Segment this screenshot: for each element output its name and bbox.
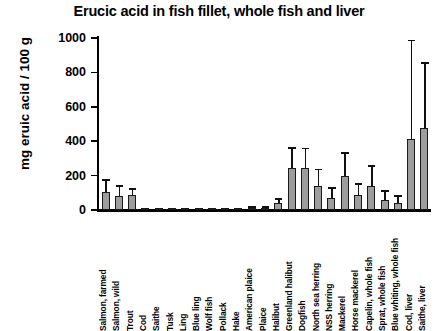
x-label-slot: Hake xyxy=(233,213,244,331)
x-label-slot: Blue whiting, whole fish xyxy=(392,213,403,331)
bar xyxy=(102,192,110,210)
error-bar-cap xyxy=(302,148,310,150)
bar xyxy=(381,200,389,210)
bar xyxy=(195,208,203,210)
error-bar-cap xyxy=(355,183,363,185)
x-tick-label: Halibut xyxy=(271,303,281,331)
error-bar-cap xyxy=(368,165,376,167)
x-tick-label: Saithe, liver xyxy=(417,285,427,331)
x-tick-label: Tusk xyxy=(165,312,175,331)
error-bar-cap xyxy=(341,152,349,154)
bar-group xyxy=(100,38,111,210)
x-tick-label: Blue ling xyxy=(191,297,201,331)
x-tick-label: NSS herring xyxy=(324,284,334,331)
x-tick-label: Cod xyxy=(138,315,148,331)
y-tick-label: 400 xyxy=(65,134,86,148)
error-bar-cap xyxy=(381,190,389,192)
bar xyxy=(234,208,242,210)
bar-group xyxy=(167,38,178,210)
error-bar-cap xyxy=(315,169,323,171)
x-label-slot: Saithe, liver xyxy=(419,213,430,331)
bar xyxy=(394,203,402,210)
y-tick-mark xyxy=(91,37,98,39)
x-tick-label: North sea herring xyxy=(311,263,321,331)
x-tick-label: Horse mackerel xyxy=(350,270,360,331)
bar-group xyxy=(299,38,310,210)
y-tick-label: 200 xyxy=(65,169,86,183)
bar-group xyxy=(140,38,151,210)
bar xyxy=(314,186,322,210)
bar-group xyxy=(352,38,363,210)
x-label-slot: Horse mackerel xyxy=(352,213,363,331)
error-bar-cap xyxy=(116,185,124,187)
error-bar-cap xyxy=(394,195,402,197)
y-tick-mark xyxy=(91,175,98,177)
error-bar-cap xyxy=(421,62,429,64)
y-tick-mark xyxy=(91,140,98,142)
bar-group xyxy=(313,38,324,210)
bar-group xyxy=(273,38,284,210)
bar xyxy=(341,176,349,210)
x-label-slot: Dogfish xyxy=(299,213,310,331)
bar-group xyxy=(233,38,244,210)
y-tick-mark xyxy=(91,72,98,74)
bar-group xyxy=(180,38,191,210)
error-bar-cap xyxy=(129,188,137,190)
x-tick-label: Mackerel xyxy=(337,296,347,331)
bar xyxy=(128,195,136,210)
x-tick-label: Wolf fish xyxy=(204,297,214,331)
bar-group xyxy=(406,38,417,210)
bar xyxy=(407,139,415,210)
y-tick-label: 600 xyxy=(65,100,86,114)
x-label-slot: Cod, liver xyxy=(406,213,417,331)
bar xyxy=(274,203,282,210)
bar-group xyxy=(193,38,204,210)
x-label-slot: Pollack xyxy=(220,213,231,331)
x-label-slot: Halibut xyxy=(273,213,284,331)
x-tick-label: Sprat, whole fish xyxy=(377,266,387,331)
error-bar-cap xyxy=(328,187,336,189)
error-bar-cap xyxy=(408,40,416,42)
error-bar-cap xyxy=(275,198,283,200)
x-label-slot: North sea herring xyxy=(313,213,324,331)
bar-group xyxy=(326,38,337,210)
x-tick-label: Plaice xyxy=(258,307,268,331)
x-tick-label: American plaice xyxy=(244,268,254,331)
x-label-slot: Sprat, whole fish xyxy=(379,213,390,331)
bar-group xyxy=(153,38,164,210)
x-tick-label: Saithe xyxy=(151,306,161,331)
chart-title: Erucic acid in fish fillet, whole fish a… xyxy=(0,3,438,19)
bar-group xyxy=(392,38,403,210)
bar-group xyxy=(419,38,430,210)
bar-group xyxy=(379,38,390,210)
bar xyxy=(327,198,335,210)
x-label-slot: American plaice xyxy=(246,213,257,331)
x-label-slot: Salmon, wild xyxy=(113,213,124,331)
x-tick-label: Cod, liver xyxy=(404,294,414,331)
bar-group xyxy=(366,38,377,210)
bar xyxy=(354,195,362,210)
bar xyxy=(288,168,296,210)
y-tick-label: 0 xyxy=(79,203,86,217)
x-label-slot: Trout xyxy=(127,213,138,331)
plot-area xyxy=(99,38,431,210)
x-label-slot: Cod xyxy=(140,213,151,331)
x-label-slot: Salmon, farmed xyxy=(100,213,111,331)
x-tick-label: Capelin, whole fish xyxy=(364,257,374,331)
bar xyxy=(168,208,176,210)
bar xyxy=(115,196,123,210)
y-tick-mark xyxy=(91,106,98,108)
x-tick-label: Greenland halibut xyxy=(284,262,294,331)
x-label-slot: Capelin, whole fish xyxy=(366,213,377,331)
x-tick-label: Pollack xyxy=(218,302,228,331)
y-tick-mark xyxy=(91,209,98,211)
bar-group xyxy=(206,38,217,210)
error-bar-cap xyxy=(102,179,110,181)
bar-group xyxy=(339,38,350,210)
x-label-slot: Tusk xyxy=(167,213,178,331)
bar xyxy=(221,208,229,210)
bar xyxy=(420,128,428,210)
x-label-slot: NSS herring xyxy=(326,213,337,331)
bar xyxy=(208,208,216,210)
x-tick-label: Hake xyxy=(231,311,241,331)
